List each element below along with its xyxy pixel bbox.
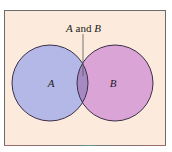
intersection-label: A and B xyxy=(65,22,101,34)
frame-bottom-edge xyxy=(4,145,166,146)
venn-diagram: A and B A B xyxy=(0,0,172,152)
venn-diagram-canvas: A and B A B xyxy=(0,0,172,152)
set-b-label: B xyxy=(110,77,117,89)
intersection-label-b: B xyxy=(94,22,101,34)
intersection-label-conj: and xyxy=(73,22,94,34)
set-a-label: A xyxy=(47,77,55,89)
